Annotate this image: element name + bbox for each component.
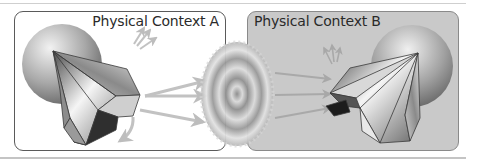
central-field-blob-icon bbox=[201, 42, 273, 146]
diagram-canvas: Physical Context A Physical Context B bbox=[0, 0, 480, 162]
left-agent-polyhedron-icon bbox=[53, 51, 140, 145]
diagram-artwork bbox=[0, 0, 480, 162]
right-agent-polyhedron-icon bbox=[326, 53, 420, 143]
